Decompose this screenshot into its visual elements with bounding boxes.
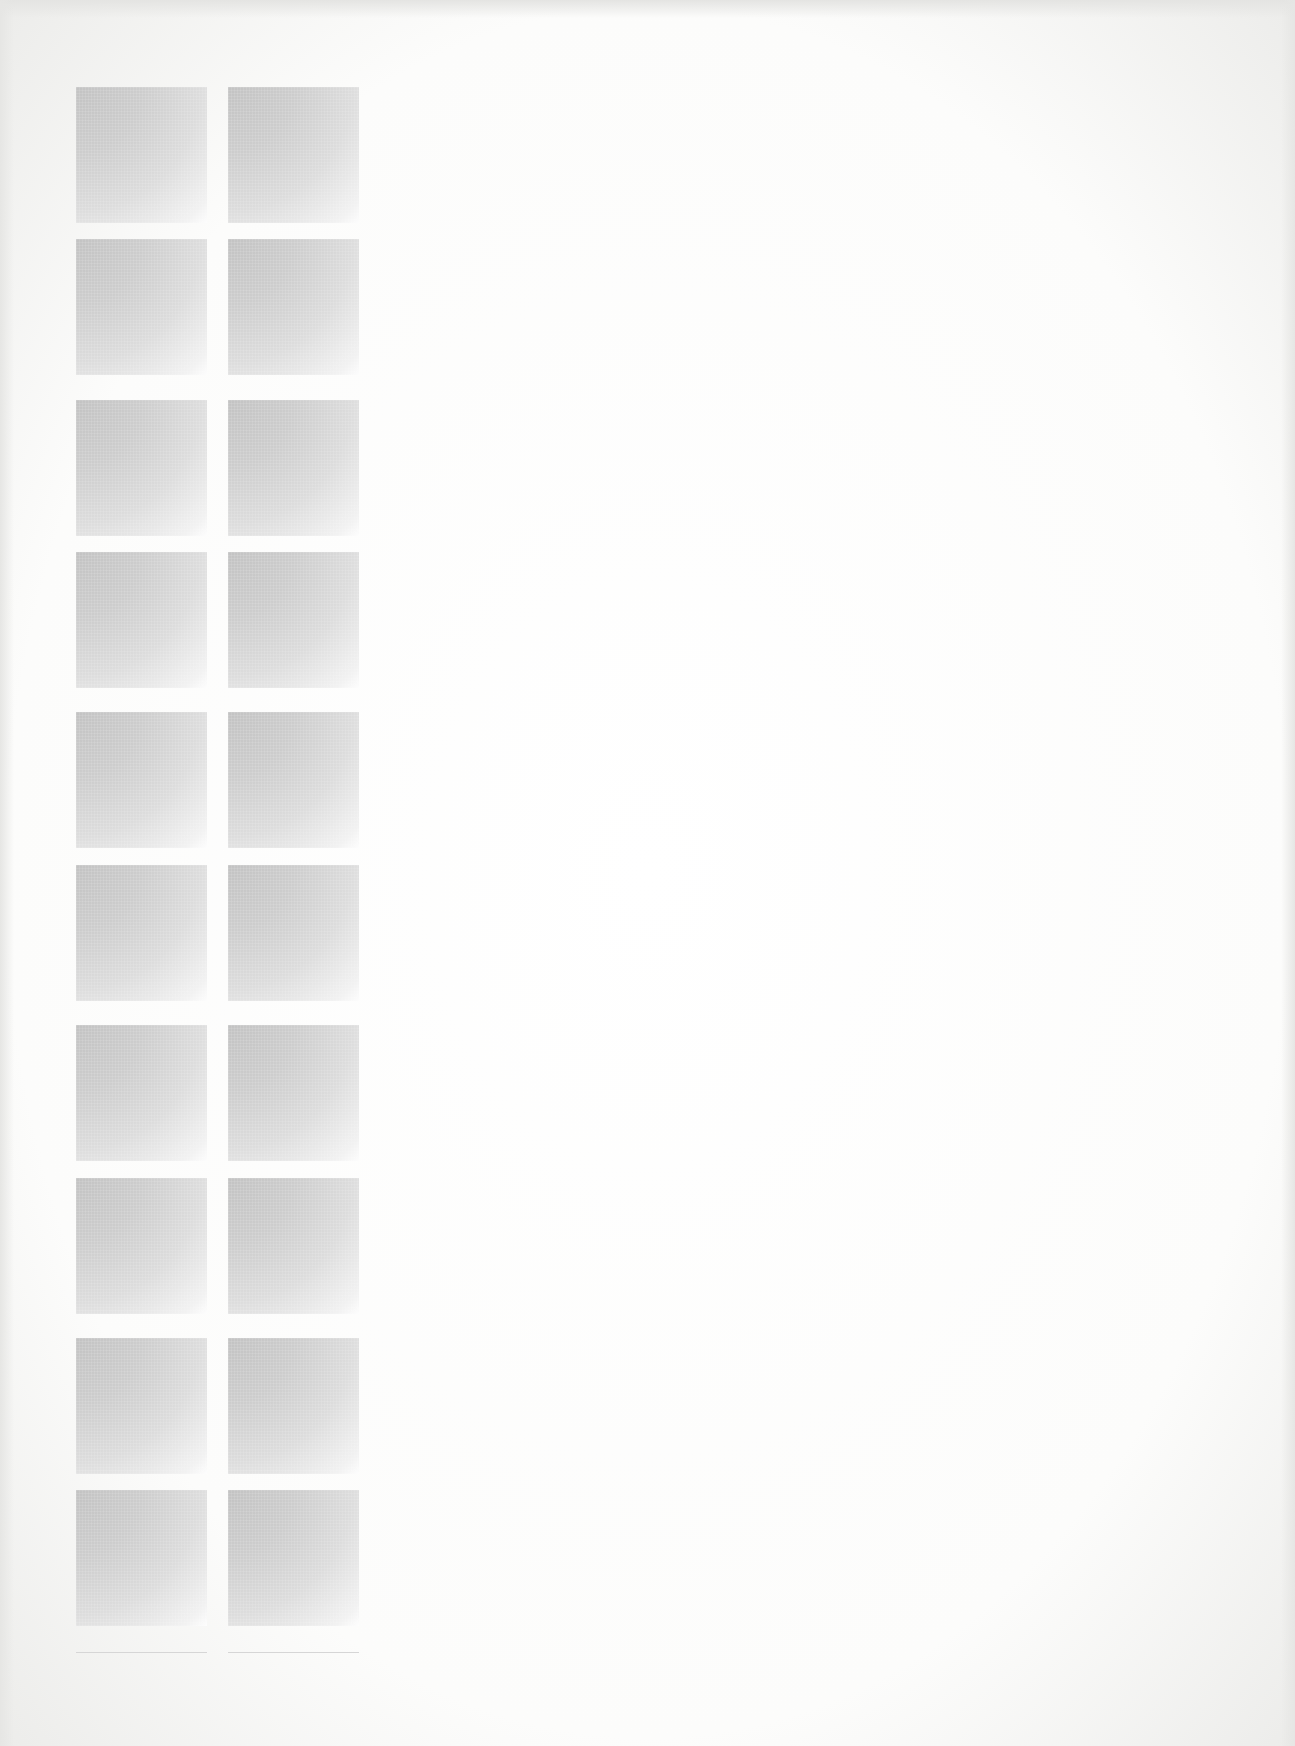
gray-square-tile (228, 1025, 359, 1161)
gray-square-tile (228, 552, 359, 688)
gray-square-tile (228, 865, 359, 1001)
gray-square-tile (228, 712, 359, 848)
gray-square-tile (228, 239, 359, 375)
divider-rule (76, 1652, 207, 1653)
gray-square-tile (76, 1025, 207, 1161)
gray-square-tile (76, 552, 207, 688)
gray-square-tile (76, 400, 207, 536)
page-edge-shadow-left (0, 0, 14, 1746)
gray-square-tile (76, 1178, 207, 1314)
gray-square-tile (228, 400, 359, 536)
gray-square-tile (228, 1178, 359, 1314)
gray-square-tile (76, 1338, 207, 1474)
gray-square-tile (76, 865, 207, 1001)
page-edge-shadow-top (0, 0, 1295, 18)
gray-square-tile (228, 1338, 359, 1474)
gray-square-tile (76, 712, 207, 848)
gray-square-tile (76, 239, 207, 375)
gray-square-tile (76, 87, 207, 223)
gray-square-tile (228, 87, 359, 223)
scanned-page (0, 0, 1295, 1746)
gray-square-tile (228, 1490, 359, 1626)
gray-square-tile (76, 1490, 207, 1626)
divider-rule (228, 1652, 359, 1653)
page-edge-shadow-right (1281, 0, 1295, 1746)
